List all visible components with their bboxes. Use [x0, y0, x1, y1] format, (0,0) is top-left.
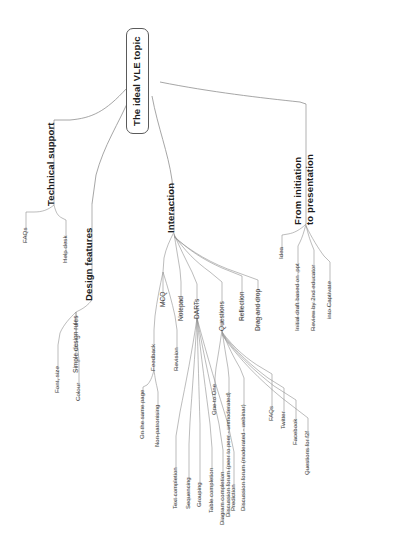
edge-darts-table-completion: [197, 318, 212, 448]
branch-technical-support[interactable]: Technical support: [46, 122, 57, 206]
node-colour[interactable]: Colour: [75, 383, 82, 401]
edge-q-faqs: [222, 332, 272, 374]
node-facebook[interactable]: Facebook: [292, 419, 299, 445]
branch-design-features[interactable]: Design features: [84, 227, 95, 301]
node-idea[interactable]: Idea: [278, 247, 285, 259]
edge-int-darts: [174, 234, 197, 284]
node-sequencing[interactable]: Sequencing: [185, 477, 192, 509]
edge-central-technical-support: [54, 88, 127, 120]
node-into-captivate[interactable]: into Captivate: [326, 281, 333, 319]
edge-q-one-to-one: [215, 330, 222, 378]
node-mcq[interactable]: MCQ: [159, 292, 166, 307]
central-node[interactable]: The ideal VLE topic: [126, 28, 149, 134]
node-darts[interactable]: DARTs: [193, 299, 200, 319]
node-review-by-2nd-educator[interactable]: Review by 2nd educator: [310, 265, 317, 331]
edge-int-reflection: [174, 236, 242, 276]
node-one-to-one[interactable]: One to One: [211, 384, 218, 415]
edge-fb-nonpat: [154, 370, 158, 392]
node-discussion-forum-unmoderated[interactable]: Discussion forum (peer to peer - unmoder…: [225, 392, 232, 517]
node-table-completion[interactable]: Table completion: [208, 468, 215, 513]
node-faqs[interactable]: FAQs: [22, 228, 29, 243]
node-notepad[interactable]: Notepad: [177, 296, 184, 321]
edge-fi-idea: [282, 224, 306, 235]
edge-darts-diagram-completion: [197, 318, 223, 450]
node-text-completion[interactable]: Text completion: [172, 467, 179, 509]
node-feedback[interactable]: Feedback: [150, 344, 157, 371]
node-questions-for-f2f[interactable]: Questions for f2f: [304, 431, 311, 475]
mind-map-canvas: The ideal VLE topic Technical support FA…: [0, 0, 399, 558]
edge-darts-text-completion: [176, 318, 197, 436]
edge-ts-faqs: [26, 205, 54, 212]
node-simple-design-rules[interactable]: Simple design rules: [72, 315, 79, 373]
edge-q-questions-f2f: [222, 335, 308, 418]
node-questions[interactable]: Questions: [218, 301, 225, 331]
edge-ts-helpdesk: [54, 205, 66, 220]
node-discussion-forum-moderated[interactable]: Discussion forum (moderated - webinar): [240, 404, 247, 511]
edge-darts-grouping: [197, 318, 200, 446]
node-non-patronising[interactable]: Non-patronising: [154, 405, 161, 447]
edge-fi-initial-draft: [298, 224, 306, 246]
edge-int-mcq: [163, 232, 174, 272]
branch-from-initiation-to-presentation[interactable]: From initiation to presentation: [292, 154, 316, 225]
edge-q-forum-moderated: [222, 331, 244, 378]
edge-fi-review: [306, 225, 314, 250]
node-font-size[interactable]: Font, size: [54, 366, 61, 393]
edge-q-twitter: [222, 333, 284, 388]
edge-int-notepad: [174, 233, 181, 282]
node-drag-and-drop[interactable]: Drag and drop: [254, 289, 261, 331]
edge-df-simple-rules: [76, 300, 92, 312]
edge-central-from-initiation: [160, 82, 306, 104]
node-help-desk[interactable]: Help desk: [62, 235, 69, 263]
node-twitter[interactable]: Twitter: [280, 411, 287, 429]
edge-int-drag-drop: [174, 237, 258, 280]
edge-q-facebook: [222, 334, 296, 400]
edge-fi-captivate: [306, 226, 330, 262]
mind-map-edges: [0, 0, 399, 558]
node-revision[interactable]: Revision: [173, 347, 180, 371]
edge-int-questions: [174, 235, 222, 282]
edge-q-forum-unmoderated: [222, 330, 229, 378]
node-reflection[interactable]: Reflection: [238, 292, 245, 321]
edge-darts-sequencing: [189, 318, 197, 444]
branch-interaction[interactable]: Interaction: [166, 183, 177, 233]
node-questions-faqs[interactable]: FAQs: [268, 406, 275, 421]
node-grouping[interactable]: Grouping: [196, 482, 203, 507]
node-initial-draft[interactable]: Initial draft based on .ppt: [294, 263, 301, 331]
edge-fb-same-page: [143, 370, 154, 387]
node-on-the-same-page[interactable]: On the same page: [139, 390, 146, 439]
